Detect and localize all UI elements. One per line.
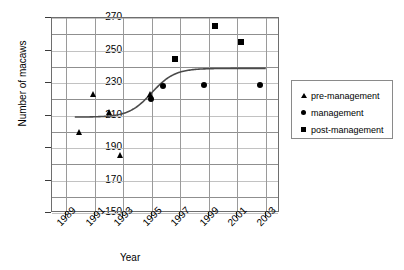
data-point-triangle	[90, 91, 96, 97]
legend-label: management	[311, 108, 364, 118]
data-point-circle	[257, 82, 263, 88]
legend-marker-square-icon	[299, 127, 308, 132]
data-point-square	[238, 39, 244, 45]
x-axis-label: Year	[120, 252, 140, 263]
legend-label: post-management	[311, 125, 384, 135]
chart-figure: 270250230210190170150 Number of macaws 1…	[0, 0, 404, 270]
chart-legend: pre-managementmanagementpost-management	[291, 80, 393, 139]
data-point-triangle	[117, 152, 123, 158]
data-point-circle	[160, 83, 166, 89]
data-point-square	[212, 23, 218, 29]
legend-marker-circle-icon	[299, 110, 308, 115]
legend-label: pre-management	[311, 91, 380, 101]
trend-curve	[52, 18, 280, 213]
legend-item: post-management	[299, 121, 392, 138]
y-tick-mark	[45, 212, 51, 213]
data-point-triangle	[106, 109, 112, 115]
y-axis-label: Number of macaws	[17, 14, 28, 154]
plot-area	[51, 17, 279, 212]
legend-marker-triangle-icon	[299, 93, 308, 98]
legend-item: management	[299, 104, 392, 121]
data-point-triangle	[76, 129, 82, 135]
data-point-square	[172, 56, 178, 62]
legend-item: pre-management	[299, 87, 392, 104]
data-point-circle	[201, 82, 207, 88]
